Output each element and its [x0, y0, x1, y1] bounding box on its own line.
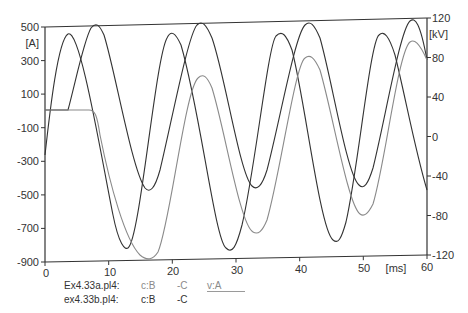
right-unit-label: [kV]	[429, 28, 448, 40]
left-tick-label: -300	[17, 155, 39, 167]
legend-row-2: ex4.33b.pl4: c:B -C	[64, 294, 207, 305]
bottom-tick-labels: 0 10 20 30 40 50 60 [ms]	[43, 261, 433, 279]
x-tick-label: 30	[231, 264, 243, 276]
series-current-a	[45, 33, 427, 250]
x-tick-label: 50	[358, 262, 370, 274]
left-unit-label: [A]	[26, 37, 39, 49]
x-tick-label: 0	[43, 267, 49, 279]
legend-item-current-b: c:B	[141, 280, 177, 292]
left-tick-label: -900	[17, 256, 39, 268]
left-tick-label: -100	[17, 122, 39, 134]
legend-item-c: -C	[177, 280, 207, 292]
series-voltage-a	[45, 20, 427, 190]
x-tick-label: 40	[295, 263, 307, 275]
x-unit-label: [ms]	[386, 262, 407, 274]
right-tick-label: -40	[432, 170, 448, 182]
x-tick-label: 60	[421, 261, 433, 273]
left-tick-labels: 500 300 100 -100 -300 -500 -700 -900 [A]	[17, 21, 39, 268]
right-tick-label: -120	[432, 249, 454, 261]
chart-plot: 500 300 100 -100 -300 -500 -700 -900 [A]…	[0, 0, 468, 313]
x-tick-label: 20	[167, 265, 179, 277]
right-tick-label: 0	[432, 131, 438, 143]
right-tick-labels: 120 80 40 0 -40 -80 -120 [kV]	[429, 12, 454, 261]
right-tick-label: 120	[432, 12, 450, 24]
left-tick-label: -500	[17, 189, 39, 201]
legend-item-current-b: c:B	[141, 294, 177, 305]
right-tick-label: 80	[432, 52, 444, 64]
legend-file-a: Ex4.33a.pl4:	[64, 280, 141, 292]
legend-row-1: Ex4.33a.pl4: c:B -C v:A	[64, 280, 245, 292]
legend-item-c: -C	[177, 294, 207, 305]
left-tick-label: -700	[17, 222, 39, 234]
left-tick-label: 500	[21, 21, 39, 33]
right-tick-label: -80	[432, 210, 448, 222]
right-tick-label: 40	[432, 91, 444, 103]
legend-item-voltage-a: v:A	[207, 280, 245, 292]
top-border	[45, 18, 427, 27]
left-tick-label: 100	[21, 88, 39, 100]
x-tick-label: 10	[104, 266, 116, 278]
legend-file-b: ex4.33b.pl4:	[64, 294, 141, 305]
left-tick-label: 300	[21, 55, 39, 67]
